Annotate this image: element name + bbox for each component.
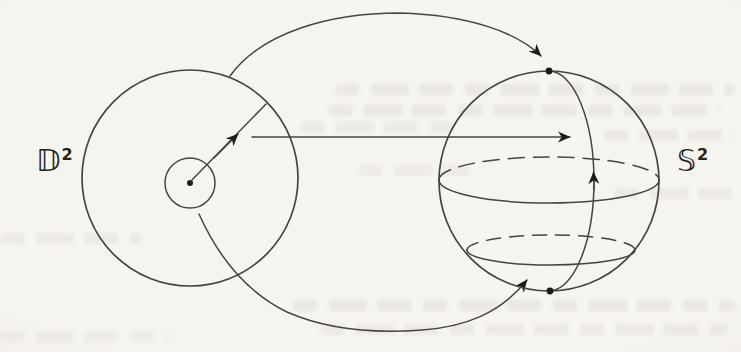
disk-label: 𝔻2 <box>36 146 73 176</box>
radial-arrowhead <box>214 134 238 158</box>
lower-latitude-back-arc <box>467 235 635 250</box>
south-pole-dot <box>547 288 554 295</box>
disk-outline <box>82 70 298 286</box>
disk-label-exponent: 2 <box>62 145 73 164</box>
disk-label-base: 𝔻 <box>36 143 61 178</box>
meridian-arc <box>549 71 594 291</box>
lower-latitude-front-arc <box>467 250 635 265</box>
north-pole-dot <box>546 68 553 75</box>
equator-front-arc <box>439 180 659 203</box>
quotient-map-diagram <box>0 0 741 352</box>
sphere-label-base: 𝕊 <box>677 143 696 178</box>
sphere-label: 𝕊2 <box>677 146 708 176</box>
sphere-outline <box>439 71 659 291</box>
sphere-label-exponent: 2 <box>697 145 708 164</box>
equator-back-arc <box>439 157 659 180</box>
top-curved-arrow <box>230 13 541 76</box>
bottom-curved-arrow <box>199 214 527 331</box>
meridian-arrowhead <box>594 172 595 190</box>
scanned-figure-page: 𝔻2 𝕊2 <box>0 0 741 352</box>
